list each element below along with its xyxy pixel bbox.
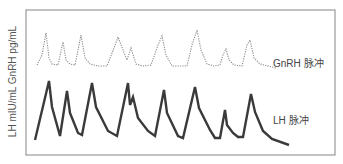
- chart-frame: [26, 10, 335, 155]
- pulse-chart: LH mIU/mL GnRH pg/mL GnRH 脉冲 LH 脉冲: [0, 0, 343, 164]
- chart-plot-area: [0, 0, 343, 164]
- lh-legend-label: LH 脉冲: [273, 112, 309, 127]
- gnrh-legend-label: GnRH 脉冲: [273, 55, 324, 70]
- gnrh-pulse-line: [37, 30, 276, 68]
- lh-pulse-line: [35, 81, 289, 145]
- y-axis-label: LH mIU/mL GnRH pg/mL: [7, 12, 18, 152]
